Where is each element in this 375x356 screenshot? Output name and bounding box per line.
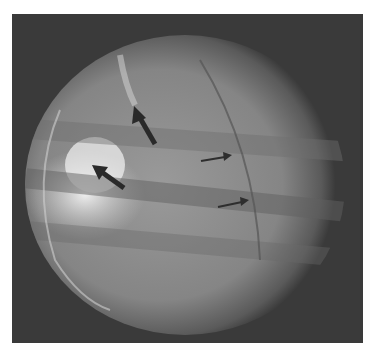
- fluoroscopy-image: [0, 0, 375, 356]
- field-of-view: [25, 35, 356, 335]
